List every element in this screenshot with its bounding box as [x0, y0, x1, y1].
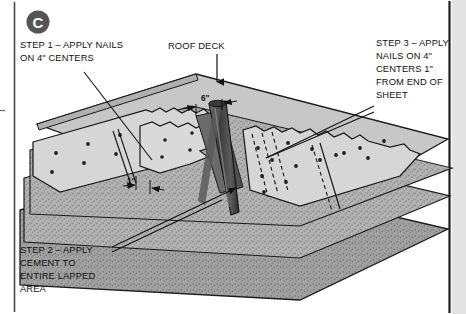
- step-3-line-4: FROM END OF: [376, 76, 443, 87]
- step-1-line-2: ON 4" CENTERS: [20, 52, 94, 63]
- figure-badge: C: [27, 11, 50, 34]
- step-2-line-4: AREA: [20, 283, 47, 294]
- step-3-line-1: STEP 3 – APPLY: [376, 37, 450, 48]
- step-3-line-3: CENTERS 1": [376, 63, 433, 74]
- figure-page: 6" 1" C STEP 1 – APPLY NAILS ON 4" CE: [0, 0, 466, 314]
- step-3-line-2: NAILS ON 4": [376, 50, 432, 61]
- roof-deck-callout: ROOF DECK: [168, 40, 225, 51]
- roof-deck-line-1: ROOF DECK: [168, 40, 225, 51]
- step-3-line-5: SHEET: [376, 89, 408, 100]
- step-2-line-2: CEMENT TO: [20, 257, 76, 268]
- dimension-6-inch-label: 6": [201, 94, 210, 103]
- cone-top-opening: [209, 100, 226, 106]
- step-2-line-3: ENTIRE LAPPED: [20, 270, 95, 281]
- badge-label: C: [33, 14, 44, 31]
- step-1-line-1: STEP 1 – APPLY NAILS: [20, 39, 123, 50]
- roofing-installation-diagram: 6" 1" C STEP 1 – APPLY NAILS ON 4" CE: [0, 0, 466, 314]
- step-2-line-1: STEP 2 – APPLY: [20, 244, 94, 255]
- dimension-1-inch-label: 1": [127, 177, 136, 186]
- right-margin-band: [452, 0, 466, 314]
